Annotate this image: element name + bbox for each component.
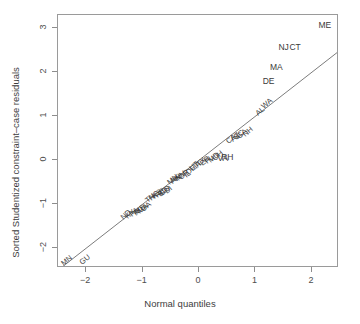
y-axis-title-text: Sorted Studentized constraint–case resid… — [10, 67, 21, 258]
data-point-label: GU — [78, 252, 92, 266]
x-axis-tick-label: 1 — [252, 275, 257, 285]
x-axis-tick — [85, 267, 86, 272]
x-axis-tick-label: 0 — [196, 275, 201, 285]
data-point-label: ME — [319, 20, 332, 30]
x-axis-tick — [254, 267, 255, 272]
y-axis-title: Sorted Studentized constraint–case resid… — [8, 0, 22, 324]
x-axis-tick-label: −2 — [80, 275, 90, 285]
y-axis-tick-label: 0 — [38, 157, 48, 162]
data-point-label: DE — [263, 76, 275, 86]
data-point-label: MN — [59, 253, 74, 266]
x-axis-tick — [311, 267, 312, 272]
x-axis-tick — [198, 267, 199, 272]
data-point-label: NJ — [279, 42, 289, 52]
data-point-label: CT — [289, 42, 300, 52]
y-axis-tick-label: −2 — [38, 242, 48, 252]
data-point-label: MA — [270, 62, 283, 72]
x-axis-tick — [142, 267, 143, 272]
y-axis-tick-label: 1 — [38, 113, 48, 118]
x-axis-title: Normal quantiles — [0, 298, 360, 309]
qq-reference-line — [58, 15, 337, 266]
x-axis-tick-label: 2 — [308, 275, 313, 285]
plot-area: MNGUNDKYPARIMSMAOATNNCKSNESDCODIMNAKWINV… — [58, 15, 337, 266]
y-axis-tick-label: −1 — [38, 198, 48, 208]
plot-frame: MNGUNDKYPARIMSMAOATNNCKSNESDCODIMNAKWINV… — [57, 14, 338, 267]
y-axis-tick-label: 3 — [38, 25, 48, 30]
data-point-label: RH — [221, 152, 233, 162]
y-axis-tick-label: 2 — [38, 69, 48, 74]
qq-plot-figure: Sorted Studentized constraint–case resid… — [0, 0, 360, 324]
x-axis-tick-label: −1 — [136, 275, 146, 285]
